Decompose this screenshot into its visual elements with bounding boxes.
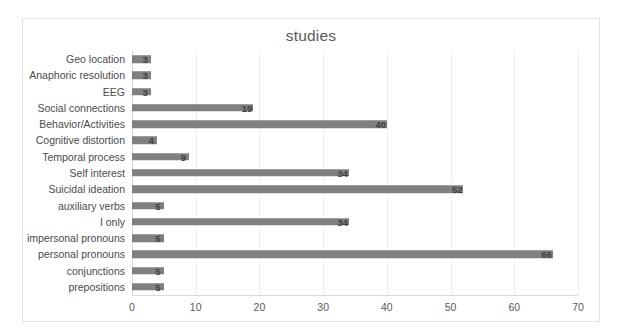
category-label: Behavior/Activities xyxy=(39,118,125,130)
bar-value-label: 5 xyxy=(155,265,160,276)
bar-value-label: 3 xyxy=(142,70,147,81)
bar-row: Anaphoric resolution3 xyxy=(132,67,578,83)
category-label: Suicidal ideation xyxy=(49,183,125,195)
bar-row: EEG3 xyxy=(132,84,578,100)
x-tick-label: 60 xyxy=(508,301,520,313)
bar[interactable] xyxy=(132,251,553,259)
bar-row: I only34 xyxy=(132,214,578,230)
x-axis-line xyxy=(132,295,578,296)
category-label: Geo location xyxy=(66,53,125,65)
bar-value-label: 19 xyxy=(242,102,253,113)
bar[interactable] xyxy=(132,169,349,177)
bar-value-label: 9 xyxy=(181,151,186,162)
bar-value-label: 5 xyxy=(155,233,160,244)
x-tick-label: 20 xyxy=(254,301,266,313)
bar-value-label: 3 xyxy=(142,86,147,97)
plot-area: Geo location3Anaphoric resolution3EEG3So… xyxy=(132,51,578,295)
category-label: conjunctions xyxy=(67,265,125,277)
bar-value-label: 40 xyxy=(376,119,387,130)
bar-row: Behavior/Activities40 xyxy=(132,116,578,132)
bar[interactable] xyxy=(132,120,387,128)
x-tick-label: 70 xyxy=(572,301,584,313)
x-tick-label: 10 xyxy=(190,301,202,313)
bar-row: Temporal process9 xyxy=(132,149,578,165)
bar-value-label: 5 xyxy=(155,200,160,211)
x-tick-label: 40 xyxy=(381,301,393,313)
category-label: auxiliary verbs xyxy=(58,200,125,212)
bar[interactable] xyxy=(132,104,253,112)
bar-value-label: 34 xyxy=(337,216,348,227)
category-label: Social connections xyxy=(37,102,125,114)
category-label: I only xyxy=(100,216,125,228)
bar-series: Geo location3Anaphoric resolution3EEG3So… xyxy=(132,51,578,295)
bar-row: Geo location3 xyxy=(132,51,578,67)
bar-row: Social connections19 xyxy=(132,100,578,116)
category-label: Anaphoric resolution xyxy=(29,69,125,81)
category-label: Temporal process xyxy=(42,151,125,163)
bar-row: Cognitive distortion4 xyxy=(132,132,578,148)
bar-value-label: 52 xyxy=(452,184,463,195)
bar-row: Suicidal ideation52 xyxy=(132,181,578,197)
x-tick-label: 50 xyxy=(445,301,457,313)
bar-value-label: 4 xyxy=(149,135,154,146)
bar-value-label: 66 xyxy=(541,249,552,260)
bar[interactable] xyxy=(132,218,349,226)
bar-row: conjunctions5 xyxy=(132,262,578,278)
x-tick-label: 0 xyxy=(129,301,135,313)
category-label: personal pronouns xyxy=(38,248,125,260)
bar-value-label: 34 xyxy=(337,167,348,178)
gridline-70 xyxy=(578,51,579,295)
category-label: impersonal pronouns xyxy=(27,232,125,244)
bar-row: auxiliary verbs5 xyxy=(132,197,578,213)
category-label: EEG xyxy=(103,86,125,98)
bar-row: personal pronouns66 xyxy=(132,246,578,262)
bar-row: prepositions5 xyxy=(132,279,578,295)
chart-container: studies Geo location3Anaphoric resolutio… xyxy=(22,18,600,322)
x-tick-label: 30 xyxy=(317,301,329,313)
bar-row: impersonal pronouns5 xyxy=(132,230,578,246)
bar[interactable] xyxy=(132,186,463,194)
bar-value-label: 3 xyxy=(142,54,147,65)
bar-row: Self interest34 xyxy=(132,165,578,181)
category-label: prepositions xyxy=(68,281,125,293)
category-label: Self interest xyxy=(70,167,125,179)
bar-value-label: 5 xyxy=(155,281,160,292)
chart-title: studies xyxy=(23,27,599,45)
category-label: Cognitive distortion xyxy=(36,134,125,146)
